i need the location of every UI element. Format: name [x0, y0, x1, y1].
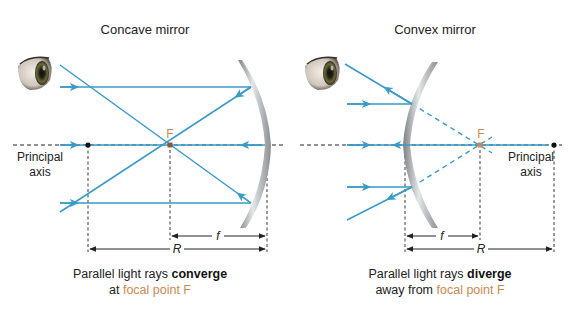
concave-title: Concave mirror	[85, 22, 205, 37]
caption-text: Parallel light rays	[368, 267, 467, 281]
caption-line1: Parallel light rays converge	[40, 266, 260, 282]
center-of-curvature-point	[85, 142, 90, 147]
concave-axis-label: Principal axis	[2, 150, 78, 180]
caption-line2: away from focal point F	[330, 282, 550, 298]
caption-line1: Parallel light rays diverge	[330, 266, 550, 282]
eye-icon	[18, 57, 52, 90]
concave-caption: Parallel light rays converge at focal po…	[40, 266, 260, 298]
center-of-curvature-point	[551, 142, 556, 147]
convex-title: Convex mirror	[375, 22, 495, 37]
convex-caption: Parallel light rays diverge away from fo…	[330, 266, 550, 298]
focal-point-label: F	[166, 127, 173, 141]
light-rays	[345, 64, 548, 220]
axis-label-line2: axis	[2, 165, 78, 180]
light-rays	[60, 65, 265, 212]
caption-emphasis: diverge	[467, 267, 511, 281]
axis-label-line1: Principal	[2, 150, 78, 165]
radius-label: R	[173, 242, 182, 256]
axis-label-line2: axis	[493, 165, 569, 180]
focal-point-marker	[168, 143, 173, 148]
mirror-diagram: F f R	[0, 0, 574, 310]
axis-label-line1: Principal	[493, 150, 569, 165]
caption-text: at	[109, 283, 123, 297]
focal-point-label: F	[477, 127, 484, 141]
caption-emphasis: converge	[172, 267, 228, 281]
caption-text: Parallel light rays	[73, 267, 172, 281]
eye-icon	[305, 57, 340, 90]
caption-text: away from	[375, 283, 436, 297]
convex-axis-label: Principal axis	[493, 150, 569, 180]
radius-label: R	[477, 242, 486, 256]
focal-point-marker	[478, 143, 483, 148]
caption-focal-point: focal point F	[123, 283, 191, 297]
caption-focal-point: focal point F	[437, 283, 505, 297]
caption-line2: at focal point F	[40, 282, 260, 298]
